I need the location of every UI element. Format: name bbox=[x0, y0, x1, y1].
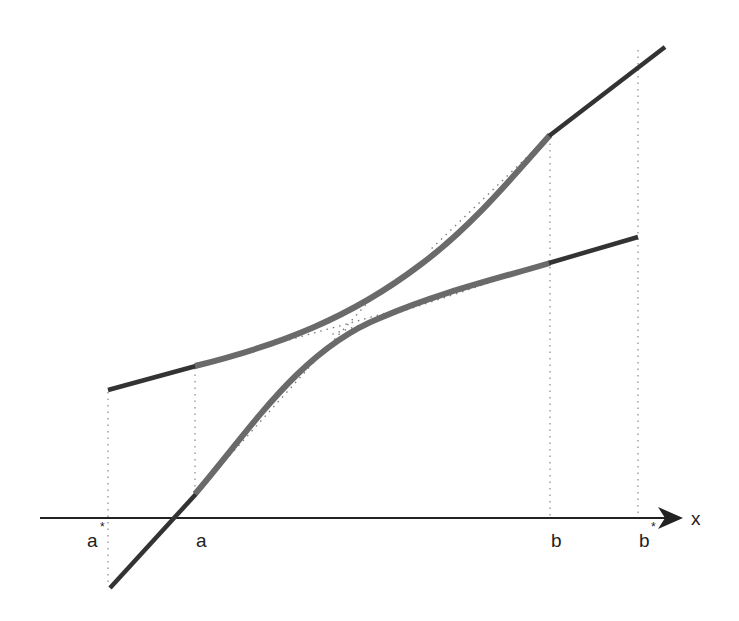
diagram-canvas: a * a b b * x bbox=[0, 0, 739, 621]
upper-left-tangent-line bbox=[108, 366, 196, 390]
x-axis bbox=[40, 507, 683, 529]
label-b-star-superscript: * bbox=[651, 520, 656, 534]
label-b: b bbox=[551, 530, 562, 551]
label-b-star: b bbox=[639, 530, 650, 551]
label-a-star-superscript: * bbox=[100, 520, 105, 534]
upper-right-tangent-line bbox=[549, 47, 665, 136]
upper-main-curve bbox=[195, 135, 550, 366]
label-x-axis: x bbox=[691, 508, 701, 529]
upper-curve bbox=[108, 47, 665, 390]
label-a: a bbox=[196, 530, 207, 551]
label-a-star: a bbox=[87, 530, 98, 551]
tangent-extensions bbox=[195, 135, 550, 494]
lower-right-tangent-line bbox=[549, 237, 638, 263]
lower-left-tangent-line bbox=[110, 494, 196, 588]
